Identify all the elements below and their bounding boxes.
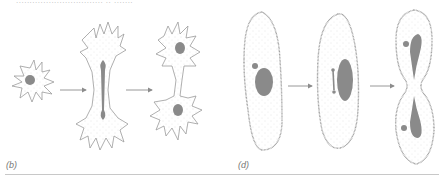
paramecium-daughter-cells	[396, 10, 434, 164]
paramecium-single-cell	[244, 12, 282, 150]
nucleus-icon	[173, 104, 183, 116]
nucleus-icon	[25, 75, 35, 85]
nucleus-icon	[175, 42, 185, 54]
panel-label-b: (b)	[6, 160, 17, 170]
fission-diagram	[0, 0, 444, 183]
amoeba-single-cell	[12, 60, 54, 102]
panel-label-d: (d)	[238, 160, 249, 170]
macronucleus-icon	[337, 59, 353, 101]
micronucleus-icon	[403, 41, 409, 47]
micronucleus-icon	[252, 63, 258, 69]
divider-rule	[5, 174, 439, 175]
amoeba-daughter-cells	[150, 22, 202, 140]
micronucleus-icon	[401, 125, 407, 131]
amoeba-dividing-cell	[76, 22, 128, 150]
paramecium-dividing-cell	[318, 14, 359, 148]
macronucleus-icon	[255, 68, 273, 96]
